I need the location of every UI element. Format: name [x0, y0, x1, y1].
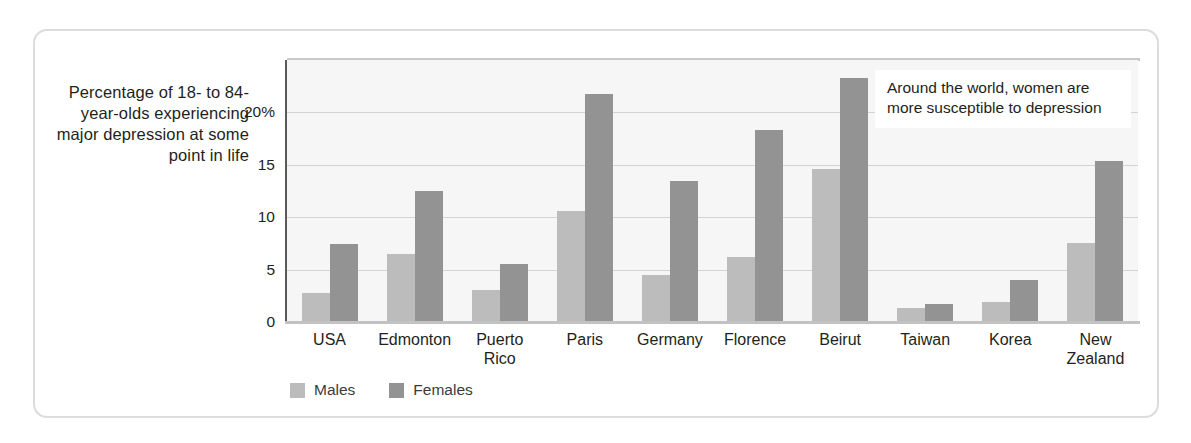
x-tick-label: Florence — [724, 330, 786, 349]
bar-males-puerto-rico — [472, 290, 500, 322]
bar-males-florence — [727, 257, 755, 322]
bar-males-korea — [982, 302, 1010, 322]
x-tick-label: Edmonton — [378, 330, 451, 349]
bar-males-paris — [557, 211, 585, 322]
bar-females-korea — [1010, 280, 1038, 322]
bar-females-paris — [585, 94, 613, 322]
x-tick-label: Paris — [567, 330, 603, 349]
y-axis-title: Percentage of 18- to 84-year-olds experi… — [44, 82, 249, 166]
annotation-callout: Around the world, women are more suscept… — [875, 70, 1131, 128]
chart-page: Percentage of 18- to 84-year-olds experi… — [0, 0, 1191, 443]
bar-females-usa — [330, 244, 358, 322]
bar-females-puerto-rico — [500, 264, 528, 322]
gridline — [287, 165, 1138, 166]
bar-females-florence — [755, 130, 783, 322]
y-tick-label: 0 — [215, 313, 275, 331]
y-tick-label: 5 — [215, 261, 275, 279]
bar-males-usa — [302, 293, 330, 322]
bar-females-beirut — [840, 78, 868, 322]
x-tick-label: USA — [313, 330, 346, 349]
bar-females-germany — [670, 181, 698, 322]
x-tick-label: Puerto Rico — [476, 330, 523, 368]
chart-legend: Males Females — [290, 381, 473, 399]
legend-item-females: Females — [389, 381, 472, 399]
legend-label-males: Males — [314, 381, 355, 399]
legend-label-females: Females — [413, 381, 472, 399]
x-tick-label: New Zealand — [1067, 330, 1125, 368]
x-axis-line — [285, 321, 1140, 324]
y-tick-label: 15 — [215, 156, 275, 174]
bar-males-edmonton — [387, 254, 415, 322]
bar-males-taiwan — [897, 308, 925, 322]
bar-males-new-zealand — [1067, 243, 1095, 322]
y-tick-label: 10 — [215, 208, 275, 226]
x-tick-label: Taiwan — [900, 330, 950, 349]
bar-males-beirut — [812, 169, 840, 322]
bar-males-germany — [642, 275, 670, 322]
legend-item-males: Males — [290, 381, 355, 399]
legend-swatch-females — [389, 383, 404, 398]
bar-females-edmonton — [415, 191, 443, 322]
legend-swatch-males — [290, 383, 305, 398]
y-tick-label: 20% — [215, 103, 275, 121]
x-tick-label: Germany — [637, 330, 703, 349]
x-tick-label: Beirut — [819, 330, 861, 349]
bar-females-taiwan — [925, 304, 953, 322]
x-tick-label: Korea — [989, 330, 1032, 349]
bar-females-new-zealand — [1095, 161, 1123, 322]
